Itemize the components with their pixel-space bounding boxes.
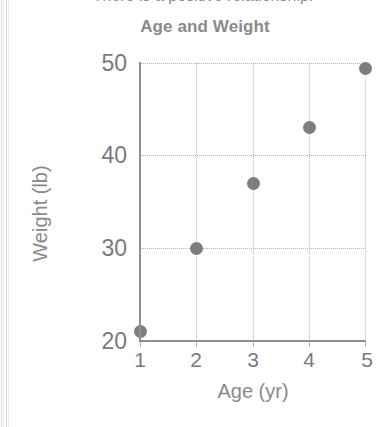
data-point <box>247 177 260 190</box>
x-tick-label: 2 <box>190 348 202 372</box>
x-tick-mark <box>196 342 197 347</box>
gridline-x-4 <box>309 63 310 341</box>
x-tick-mark <box>140 342 141 347</box>
y-tick-label: 50 <box>101 50 127 77</box>
x-tick-label: 1 <box>134 348 146 372</box>
x-tick-mark <box>253 342 254 347</box>
x-tick-label: 3 <box>247 348 259 372</box>
x-axis-title: Age (yr) <box>140 380 366 403</box>
plot-area <box>140 63 366 341</box>
x-tick-mark <box>309 342 310 347</box>
data-point <box>190 242 203 255</box>
data-point <box>303 121 316 134</box>
y-tick-label: 40 <box>101 142 127 169</box>
gridline-x-5 <box>365 63 366 341</box>
gridline-x-2 <box>196 63 197 341</box>
gridline-x-3 <box>253 63 254 341</box>
y-axis-title: Weight (lb) <box>29 114 52 314</box>
y-axis-line <box>139 62 141 342</box>
x-tick-label: 4 <box>303 348 315 372</box>
data-point <box>359 62 372 75</box>
x-tick-mark <box>365 342 366 347</box>
x-axis-tick-labels: 1 2 3 4 5 <box>0 348 386 378</box>
x-tick-label: 5 <box>361 348 373 372</box>
y-tick-label: 30 <box>101 235 127 262</box>
